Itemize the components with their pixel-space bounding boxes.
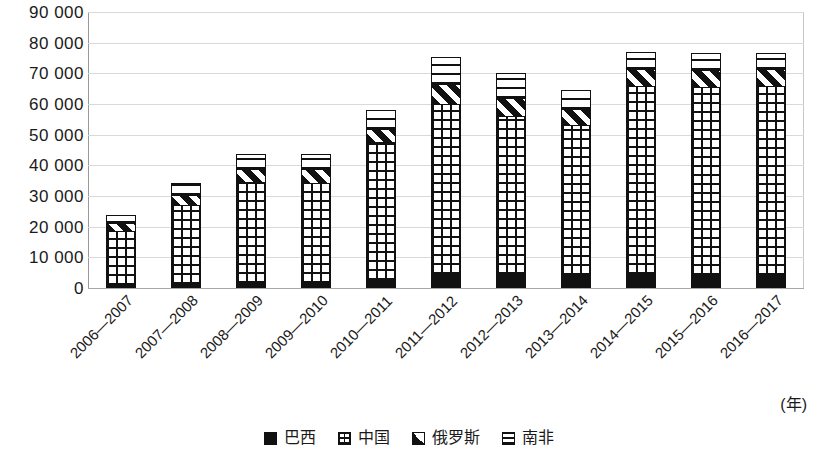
bar-group[interactable] <box>301 12 331 288</box>
x-axis-tick-label: 2012—2013 <box>457 292 525 360</box>
legend-item[interactable]: 中国 <box>338 430 390 446</box>
bar-segment[interactable] <box>561 90 591 108</box>
bar-segment[interactable] <box>496 274 526 288</box>
bar-segment[interactable] <box>301 283 331 288</box>
bar-segment[interactable] <box>756 69 786 86</box>
x-axis-tick-label: 2010—2011 <box>327 293 395 361</box>
legend-item[interactable]: 南非 <box>502 430 554 446</box>
y-axis-labels: 90 00080 00070 00060 00050 00040 00030 0… <box>0 0 84 300</box>
y-axis-tick-label: 70 000 <box>29 65 84 82</box>
bar-series-container <box>88 12 804 288</box>
bar-group[interactable] <box>171 12 201 288</box>
x-axis-tick-label: 2008—2009 <box>197 292 265 360</box>
bar-segment[interactable] <box>626 69 656 86</box>
horizontal-lines-swatch-icon <box>502 432 515 445</box>
stacked-bar[interactable] <box>496 73 526 288</box>
y-axis-tick-label: 20 000 <box>29 218 84 235</box>
bar-group[interactable] <box>106 12 136 288</box>
bar-segment[interactable] <box>171 183 201 194</box>
bar-group[interactable] <box>691 12 721 288</box>
legend-item-label: 南非 <box>522 430 554 446</box>
plot-area <box>88 12 804 288</box>
bar-group[interactable] <box>431 12 461 288</box>
bar-segment[interactable] <box>496 98 526 116</box>
bar-segment[interactable] <box>171 205 201 284</box>
bar-segment[interactable] <box>106 215 136 223</box>
bar-segment[interactable] <box>431 84 461 104</box>
y-axis-tick-label: 0 <box>74 280 84 297</box>
grid-swatch-icon <box>338 432 351 445</box>
x-axis-tick-label: 2006—2007 <box>67 292 135 360</box>
bar-group[interactable] <box>756 12 786 288</box>
bar-group[interactable] <box>236 12 266 288</box>
bar-segment[interactable] <box>756 53 786 70</box>
bar-segment[interactable] <box>756 86 786 275</box>
bar-segment[interactable] <box>171 284 201 288</box>
stacked-bar[interactable] <box>301 154 331 288</box>
x-axis-tick-label: 2007—2008 <box>132 292 200 360</box>
bar-segment[interactable] <box>431 274 461 288</box>
diagonal-swatch-icon <box>412 432 425 445</box>
bar-segment[interactable] <box>691 70 721 86</box>
legend-item-label: 俄罗斯 <box>432 430 480 446</box>
bar-group[interactable] <box>366 12 396 288</box>
bar-segment[interactable] <box>106 285 136 288</box>
bar-group[interactable] <box>561 12 591 288</box>
bar-segment[interactable] <box>496 116 526 274</box>
bar-segment[interactable] <box>561 275 591 288</box>
bar-segment[interactable] <box>626 86 656 275</box>
bar-segment[interactable] <box>431 104 461 274</box>
y-axis-tick-label: 50 000 <box>29 126 84 143</box>
bar-group[interactable] <box>626 12 656 288</box>
bar-segment[interactable] <box>691 53 721 70</box>
stacked-bar[interactable] <box>626 52 656 288</box>
x-axis-tick-label: 2014—2015 <box>587 292 655 360</box>
bar-segment[interactable] <box>236 169 266 182</box>
stacked-bar[interactable] <box>561 90 591 288</box>
bar-segment[interactable] <box>691 87 721 276</box>
bar-segment[interactable] <box>691 275 721 288</box>
bar-segment[interactable] <box>366 280 396 288</box>
bar-segment[interactable] <box>301 183 331 284</box>
x-axis-tick-label: 2011—2012 <box>392 293 460 361</box>
bar-segment[interactable] <box>236 182 266 283</box>
stacked-bar[interactable] <box>236 154 266 288</box>
chart-legend: 巴西中国俄罗斯南非 <box>0 430 817 446</box>
bar-segment[interactable] <box>496 73 526 98</box>
bar-segment[interactable] <box>431 57 461 85</box>
y-axis-tick-label: 10 000 <box>29 249 84 266</box>
x-axis-tick-label: 2013—2014 <box>522 292 590 360</box>
bar-segment[interactable] <box>756 275 786 288</box>
stacked-bar[interactable] <box>366 110 396 288</box>
bar-segment[interactable] <box>366 110 396 128</box>
stacked-bar[interactable] <box>106 215 136 288</box>
stacked-bar-chart: 90 00080 00070 00060 00050 00040 00030 0… <box>0 0 817 452</box>
bar-segment[interactable] <box>561 125 591 275</box>
y-axis-tick-label: 40 000 <box>29 157 84 174</box>
bar-segment[interactable] <box>236 154 266 169</box>
bar-segment[interactable] <box>301 169 331 182</box>
legend-item-label: 巴西 <box>284 430 316 446</box>
x-axis-unit-label: (年) <box>780 391 807 415</box>
bar-segment[interactable] <box>106 231 136 285</box>
legend-item-label: 中国 <box>358 430 390 446</box>
legend-item[interactable]: 俄罗斯 <box>412 430 480 446</box>
stacked-bar[interactable] <box>171 183 201 288</box>
y-axis-tick-label: 60 000 <box>29 96 84 113</box>
bar-segment[interactable] <box>106 223 136 231</box>
bar-segment[interactable] <box>301 154 331 169</box>
bar-segment[interactable] <box>366 142 396 280</box>
stacked-bar[interactable] <box>431 57 461 289</box>
bar-group[interactable] <box>496 12 526 288</box>
stacked-bar[interactable] <box>691 53 721 288</box>
x-axis-labels: 2006—20072007—20082008—20092009—20102010… <box>88 292 804 392</box>
stacked-bar[interactable] <box>756 53 786 288</box>
solid-black-swatch-icon <box>264 432 277 445</box>
bar-segment[interactable] <box>236 283 266 288</box>
bar-segment[interactable] <box>626 52 656 69</box>
bar-segment[interactable] <box>366 129 396 143</box>
bar-segment[interactable] <box>171 195 201 206</box>
bar-segment[interactable] <box>561 109 591 125</box>
bar-segment[interactable] <box>626 274 656 288</box>
legend-item[interactable]: 巴西 <box>264 430 316 446</box>
